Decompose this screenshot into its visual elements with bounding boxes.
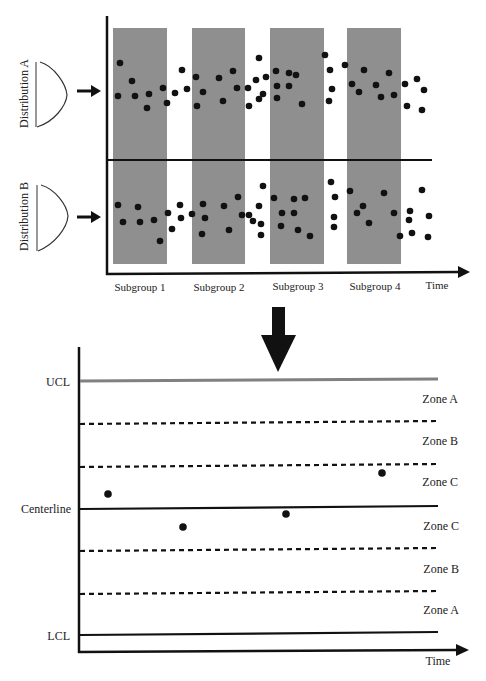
sample-dot <box>386 70 393 77</box>
distribution-a-label: Distribution A <box>17 59 31 128</box>
plus-1-sigma-line <box>80 464 438 467</box>
sample-dot <box>326 98 333 105</box>
subgroup-mean-point <box>104 490 112 498</box>
minus-2-sigma-line <box>80 591 438 594</box>
sample-dot <box>426 213 433 220</box>
sample-dot <box>404 103 411 110</box>
subgroup-mean-point <box>378 469 386 477</box>
subgroup-bands <box>113 28 401 264</box>
sample-dot <box>250 218 257 225</box>
control-chart: UCL Centerline LCL Zone A Zone B Zone C … <box>21 347 469 668</box>
top-x-axis-arrow-icon <box>458 266 470 278</box>
top-time-label: Time <box>426 279 449 291</box>
sample-dot <box>299 101 306 108</box>
minus-1-sigma-line <box>80 548 438 551</box>
sample-dot <box>235 194 242 201</box>
sample-dot <box>234 85 241 92</box>
sample-dot <box>356 89 363 96</box>
top-sampling-diagram: Distribution A Distribution B Subgroup 1… <box>17 16 470 293</box>
sample-dot <box>151 217 158 224</box>
sample-dot <box>293 72 300 79</box>
sample-dot <box>256 203 263 210</box>
sample-dot <box>193 74 200 81</box>
sample-dot <box>279 210 286 217</box>
sample-dot <box>302 195 309 202</box>
bell-curve-a-icon <box>36 62 67 127</box>
bottom-x-axis-arrow-icon <box>456 644 469 656</box>
sample-dot <box>194 103 201 110</box>
sample-dot <box>157 238 164 245</box>
sample-dot <box>164 100 171 107</box>
zone-b-upper-label: Zone B <box>422 434 458 448</box>
subgroup-4-label: Subgroup 4 <box>349 280 401 292</box>
arrow-a-icon <box>77 85 101 97</box>
sample-dot <box>184 86 191 93</box>
sample-dot <box>169 226 176 233</box>
sample-dot <box>199 231 206 238</box>
lcl-label: LCL <box>47 629 70 643</box>
sample-dot <box>354 210 361 217</box>
sample-dot <box>129 78 136 85</box>
sample-dot <box>425 234 432 241</box>
ucl-label: UCL <box>46 375 70 389</box>
bell-curve-b-icon <box>37 185 68 251</box>
sample-dot <box>178 215 185 222</box>
subgroup-1-label: Subgroup 1 <box>114 281 165 293</box>
centerline-label: Centerline <box>21 502 71 516</box>
sample-dot <box>331 224 338 231</box>
zone-c-lower-label: Zone C <box>423 519 459 533</box>
sample-dot <box>366 220 373 227</box>
arrow-b-icon <box>77 211 101 223</box>
sample-dot <box>322 52 329 59</box>
sample-dot <box>239 212 246 219</box>
lcl-line <box>80 632 438 635</box>
sample-dot <box>331 214 338 221</box>
zone-b-lower-label: Zone B <box>423 562 459 576</box>
transform-down-arrow-icon <box>261 307 296 372</box>
sample-dot <box>179 67 186 74</box>
sample-dot <box>200 201 207 208</box>
sample-dot <box>246 103 253 110</box>
sample-dot <box>135 204 142 211</box>
sample-dot <box>256 55 263 62</box>
sample-dot <box>172 90 179 97</box>
subgroup-mean-point <box>179 523 187 531</box>
sample-dot <box>291 196 298 203</box>
centerline <box>80 506 438 509</box>
sample-dot <box>406 217 413 224</box>
sample-dot <box>177 202 184 209</box>
sample-dot <box>256 96 263 103</box>
bottom-x-axis <box>78 650 458 652</box>
sample-dot <box>160 85 167 92</box>
distribution-b-label: Distribution B <box>17 182 31 251</box>
sample-dot <box>295 227 302 234</box>
sample-dot <box>409 230 416 237</box>
control-chart-diagram: Distribution A Distribution B Subgroup 1… <box>0 0 486 681</box>
sample-dot <box>115 202 122 209</box>
top-x-axis <box>106 272 460 274</box>
sample-dot <box>347 188 354 195</box>
sample-dot <box>144 105 151 112</box>
subgroup-band-4 <box>347 28 401 264</box>
zone-a-lower-label: Zone A <box>423 603 459 617</box>
sample-dot <box>216 75 223 82</box>
sample-dot <box>342 62 349 69</box>
sample-dot <box>361 67 368 74</box>
sample-dot <box>253 77 260 84</box>
sample-dot <box>120 219 127 226</box>
sample-dot <box>117 60 124 67</box>
bottom-time-label: Time <box>426 654 451 668</box>
sample-dot <box>132 93 139 100</box>
sample-dot <box>258 221 265 228</box>
ucl-line <box>80 379 438 381</box>
sample-dot <box>278 223 285 230</box>
sample-dot <box>115 93 122 100</box>
sample-dot <box>137 219 144 226</box>
sample-dot <box>391 92 398 99</box>
sample-dot <box>286 83 293 90</box>
sample-dot <box>286 70 293 77</box>
subgroup-mean-points <box>104 469 386 531</box>
zone-a-upper-label: Zone A <box>422 392 458 406</box>
sample-dot <box>391 210 398 217</box>
zone-c-upper-label: Zone C <box>422 475 458 489</box>
